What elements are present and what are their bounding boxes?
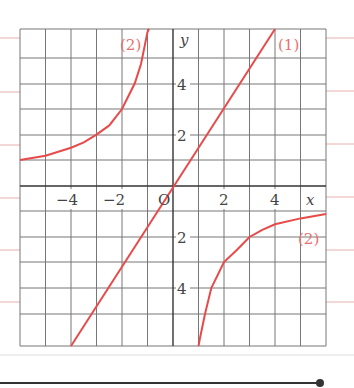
y-tick-m4: 4	[177, 280, 187, 298]
x-axis-label: x	[306, 191, 315, 209]
x-tick-4: 4	[270, 191, 280, 209]
x-tick-2: 2	[219, 191, 229, 209]
curve2-top-label: (2)	[120, 36, 141, 54]
chart: (2) (1) (2) y x O −4 −2 2 4 4 2 2 4	[0, 0, 354, 388]
x-tick-m4: −4	[56, 191, 78, 209]
y-tick-4: 4	[177, 76, 187, 94]
curve1-label: (1)	[278, 36, 299, 54]
y-tick-2: 2	[177, 127, 187, 145]
curve2-bottom-label: (2)	[298, 230, 319, 248]
y-tick-m2: 2	[177, 229, 187, 247]
y-axis-label: y	[179, 31, 189, 49]
origin-label: O	[158, 191, 170, 209]
bottom-rule	[0, 379, 324, 387]
x-tick-m2: −2	[103, 191, 125, 209]
